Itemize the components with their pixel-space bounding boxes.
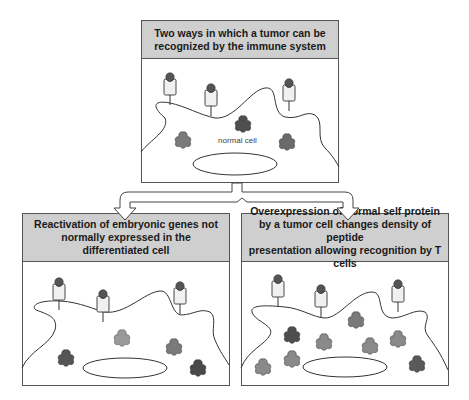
top-cell bbox=[141, 73, 339, 175]
protein-icon bbox=[284, 327, 300, 343]
mhc-receptor-icon bbox=[392, 280, 404, 312]
branch-arrows bbox=[114, 183, 359, 220]
protein-icon bbox=[58, 350, 74, 366]
top-cell-nucleus bbox=[193, 153, 277, 175]
left-cell-membrane bbox=[22, 291, 229, 368]
protein-icon bbox=[348, 312, 364, 328]
mhc-receptor-icon bbox=[205, 84, 217, 116]
diagram-graphics bbox=[0, 0, 469, 400]
left-cell bbox=[22, 278, 229, 378]
protein-icon bbox=[279, 134, 295, 150]
mhc-receptor-icon bbox=[174, 282, 186, 314]
protein-icon bbox=[114, 330, 130, 346]
protein-icon bbox=[390, 331, 406, 347]
normal-cell-label: normal cell bbox=[218, 136, 257, 145]
protein-icon bbox=[255, 359, 271, 375]
protein-icon bbox=[175, 132, 191, 148]
mhc-receptor-icon bbox=[53, 278, 65, 310]
left-cell-nucleus bbox=[83, 358, 167, 378]
protein-icon bbox=[284, 351, 300, 367]
protein-icon bbox=[316, 334, 332, 350]
mhc-receptor-icon bbox=[97, 290, 109, 322]
mhc-receptor-icon bbox=[315, 285, 327, 317]
right-cell bbox=[241, 275, 448, 377]
mhc-receptor-icon bbox=[283, 79, 295, 111]
protein-icon bbox=[190, 360, 206, 376]
protein-icon bbox=[235, 116, 251, 132]
protein-icon bbox=[362, 338, 378, 354]
mhc-receptor-icon bbox=[272, 275, 284, 307]
right-cell-nucleus bbox=[303, 357, 387, 377]
protein-icon bbox=[409, 356, 425, 372]
mhc-receptor-icon bbox=[164, 73, 176, 105]
protein-icon bbox=[166, 339, 182, 355]
